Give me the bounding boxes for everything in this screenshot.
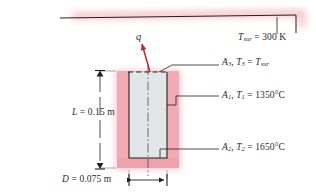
q-symbol: q: [136, 31, 141, 42]
diameter-symbol: D: [62, 174, 69, 184]
side-wall-label: A1, T1 = 1350°C: [222, 91, 285, 101]
length-arrow-top: [97, 71, 104, 77]
heat-rate-arrow: [142, 44, 150, 72]
tsur-value: = 300 K: [252, 32, 286, 42]
surroundings-boundary: [60, 13, 302, 33]
a1-value: = 1350°C: [245, 90, 285, 100]
heat-rate-label: q: [136, 31, 141, 42]
length-dimension: [95, 71, 116, 170]
length-label: L = 0.15 m: [72, 108, 115, 118]
length-value: = 0.15 m: [77, 107, 114, 117]
a2-value: = 1650°C: [245, 142, 285, 152]
base-label: A2, T2 = 1650°C: [222, 143, 285, 153]
tsur-subscript: sur: [243, 35, 251, 42]
a3-value-subscript: sur: [261, 60, 269, 67]
a3-equals: =: [245, 57, 255, 67]
diameter-dimension: [129, 170, 167, 186]
figure-canvas: Tsur = 300 K A3, T3 = Tsur A1, T1 = 1350…: [0, 0, 316, 196]
surroundings-temperature-label: Tsur = 300 K: [238, 33, 286, 43]
diameter-value: = 0.075 m: [69, 174, 111, 184]
aperture-label: A3, T3 = Tsur: [222, 58, 269, 68]
diameter-label: D = 0.075 m: [62, 175, 111, 185]
